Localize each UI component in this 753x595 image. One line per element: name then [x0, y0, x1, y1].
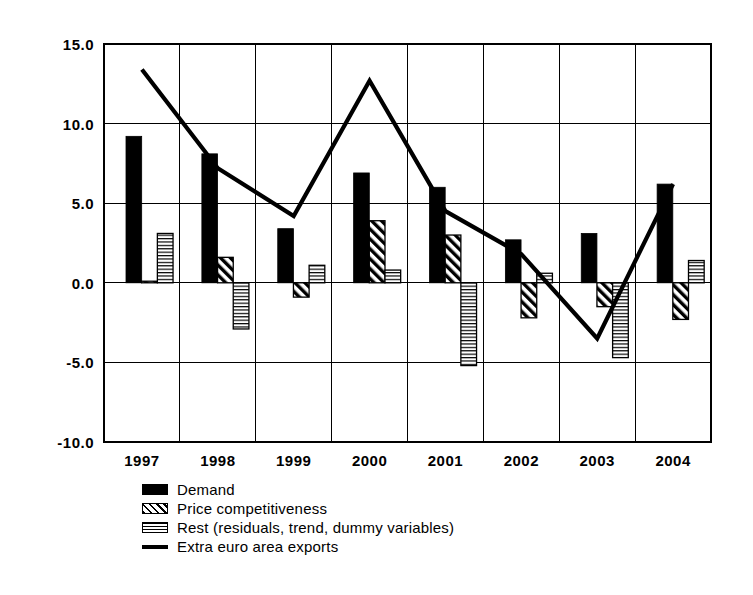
legend-item: Demand — [142, 480, 612, 499]
bar — [142, 281, 158, 283]
x-tick-label: 2004 — [655, 452, 690, 469]
x-tick-label: 1999 — [276, 452, 311, 469]
bar — [309, 265, 325, 283]
bar — [218, 257, 234, 282]
bar — [278, 229, 294, 283]
bar — [369, 221, 385, 283]
legend-swatch-icon — [142, 484, 168, 495]
legend-swatch-icon — [142, 545, 168, 549]
bar — [445, 235, 461, 283]
bar — [202, 154, 218, 283]
bar — [157, 233, 173, 282]
bar — [354, 173, 370, 283]
x-tick-label: 1997 — [124, 452, 159, 469]
x-tick-label: 2001 — [428, 452, 463, 469]
chart-container: 15.010.05.00.0-5.0-10.0 1997199819992000… — [0, 0, 753, 595]
x-tick-label: 1998 — [200, 452, 235, 469]
bar — [521, 283, 537, 318]
bar — [461, 283, 477, 366]
legend-item: Rest (residuals, trend, dummy variables) — [142, 518, 612, 537]
bar — [126, 136, 142, 282]
bar — [597, 283, 613, 307]
legend-label: Price competitiveness — [177, 501, 327, 516]
legend-label: Extra euro area exports — [177, 539, 338, 554]
x-tick-label: 2002 — [504, 452, 539, 469]
legend-label: Demand — [177, 482, 235, 497]
chart-legend: DemandPrice competitivenessRest (residua… — [142, 480, 612, 556]
bar — [581, 233, 597, 282]
bar — [293, 283, 309, 297]
x-tick-label: 2003 — [580, 452, 615, 469]
legend-swatch-icon — [142, 503, 168, 514]
legend-label: Rest (residuals, trend, dummy variables) — [177, 520, 454, 535]
bar — [430, 187, 446, 283]
legend-item: Price competitiveness — [142, 499, 612, 518]
bar — [385, 270, 401, 283]
bar — [673, 283, 689, 320]
bar — [688, 261, 704, 283]
bar — [233, 283, 249, 329]
bar-group — [126, 136, 704, 365]
grid-lines — [104, 44, 711, 442]
legend-swatch-icon — [142, 522, 168, 533]
x-tick-label: 2000 — [352, 452, 387, 469]
legend-item: Extra euro area exports — [142, 537, 612, 556]
